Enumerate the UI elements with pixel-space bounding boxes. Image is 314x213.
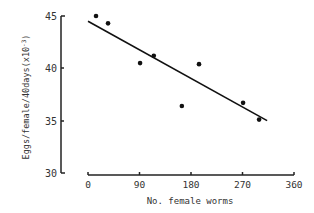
x-tick-0: 0: [85, 179, 91, 190]
y-tick-45: 45: [45, 11, 57, 22]
y-tick-35: 35: [45, 116, 57, 127]
x-tick-labels: 0 90 180 270 360: [85, 179, 303, 190]
x-tick-360: 360: [285, 179, 302, 190]
y-tick-40: 40: [45, 63, 57, 74]
data-point: [94, 14, 99, 19]
x-axis: [88, 172, 294, 175]
data-point: [180, 104, 185, 109]
y-axis-label: Eggs/female/40days(x10-3): [20, 35, 31, 160]
regression-line: [88, 21, 267, 120]
x-tick-180: 180: [182, 179, 199, 190]
data-point: [197, 62, 202, 67]
data-point: [152, 53, 157, 58]
data-point: [257, 117, 262, 122]
data-point: [138, 61, 143, 66]
scatter-chart: 45 40 35 30 Eggs/female/40days(x10-3) 0 …: [0, 0, 314, 213]
x-axis-label: No. female worms: [147, 196, 234, 206]
y-tick-labels: 45 40 35 30: [45, 11, 57, 179]
y-tick-30: 30: [45, 168, 57, 179]
data-point: [106, 21, 111, 26]
data-points: [94, 14, 262, 122]
x-tick-90: 90: [134, 179, 146, 190]
data-point: [241, 101, 246, 106]
y-axis: [61, 16, 65, 173]
x-tick-270: 270: [234, 179, 251, 190]
